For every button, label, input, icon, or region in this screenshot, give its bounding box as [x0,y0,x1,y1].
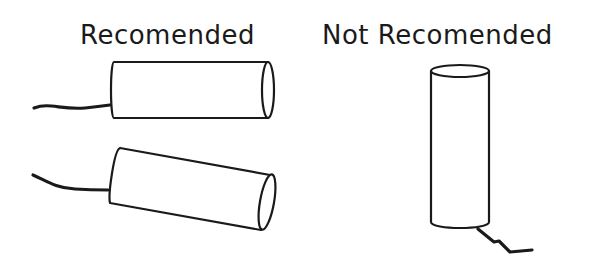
cylinder-top [431,65,489,77]
cable [34,105,110,108]
cylinder-body [111,62,268,118]
cylinder-vertical [431,65,532,252]
cylinder-end [255,173,279,231]
cylinder-body [431,71,489,228]
cylinder-end [262,62,274,118]
cylinder-tilted [33,148,279,231]
cable [478,229,532,252]
cylinder-horizontal [34,62,274,118]
cylinder-body [110,148,270,230]
diagram-canvas [0,0,615,275]
cable [33,175,108,190]
